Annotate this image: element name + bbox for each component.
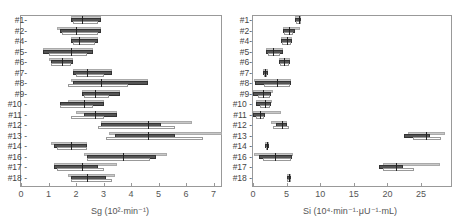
si-row-label: #8-	[224, 78, 252, 88]
si-median-line	[267, 142, 268, 150]
si-x-tick	[387, 183, 388, 186]
sg-median-line	[148, 121, 149, 129]
sg-row-label: #18 -	[0, 173, 27, 183]
sg-x-tick	[159, 183, 160, 186]
si-box-white	[263, 158, 291, 161]
sg-median-line	[79, 37, 80, 45]
sg-median-line	[71, 142, 72, 150]
sg-box-white	[84, 95, 109, 98]
si-row-label: #18 -	[224, 173, 252, 183]
si-median-line	[263, 90, 264, 98]
sg-box-white	[62, 32, 98, 35]
sg-median-line	[101, 79, 102, 87]
sg-box-white	[60, 105, 93, 108]
sg-median-line	[62, 58, 63, 66]
sg-row-label: #1-	[0, 15, 27, 25]
si-x-tick-label: 25	[416, 189, 426, 199]
si-median-line	[299, 16, 300, 24]
sg-median-line	[82, 163, 83, 171]
si-median-line	[287, 37, 288, 45]
sg-median-line	[123, 153, 124, 161]
sg-box-white	[51, 63, 70, 66]
si-median-line	[277, 79, 278, 87]
sg-row-label: #4-	[0, 36, 27, 46]
sg-row-label: #16 -	[0, 152, 27, 162]
sg-x-tick	[186, 183, 187, 186]
sg-x-tick-label: 2	[73, 189, 78, 199]
sg-row-label: #10 -	[0, 99, 27, 109]
sg-row-label: #17 -	[0, 162, 27, 172]
sg-median-line	[87, 174, 88, 182]
si-x-tick-label: 10	[315, 189, 325, 199]
sg-box-white	[49, 53, 88, 56]
sg-x-tick-label: 1	[46, 189, 51, 199]
si-x-tick	[253, 183, 254, 186]
sg-box-white	[68, 84, 129, 87]
si-median-line	[265, 69, 266, 77]
sg-row-label: #8-	[0, 78, 27, 88]
si-x-tick	[354, 183, 355, 186]
si-x-tick	[320, 183, 321, 186]
sg-box-white	[73, 42, 95, 45]
sg-median-line	[76, 27, 77, 35]
sg-x-tick-label: 7	[211, 189, 216, 199]
sg-plot-area	[20, 15, 222, 187]
sg-x-tick-label: 6	[183, 189, 188, 199]
si-x-tick	[421, 183, 422, 186]
sg-box-white	[57, 147, 87, 150]
si-box-white	[258, 95, 269, 98]
si-row-label: #12 -	[224, 120, 252, 130]
sg-box-white	[76, 74, 104, 77]
sg-x-tick	[214, 183, 215, 186]
si-row-label: #16 -	[224, 152, 252, 162]
sg-median-line	[82, 16, 83, 24]
si-row-label: #4-	[224, 36, 252, 46]
sg-x-tick	[76, 183, 77, 186]
si-row-label: #1-	[224, 15, 252, 25]
sg-box-white	[71, 179, 112, 182]
sg-row-label: #12 -	[0, 120, 27, 130]
sg-row-label: #13 -	[0, 131, 27, 141]
si-median-line	[273, 48, 274, 56]
sg-x-tick	[49, 183, 50, 186]
si-median-line	[289, 174, 290, 182]
si-x-tick-label: 5	[284, 189, 289, 199]
sg-box-white	[71, 116, 104, 119]
si-median-line	[396, 163, 397, 171]
si-row-label: #17 -	[224, 162, 252, 172]
sg-box-white	[87, 158, 150, 161]
si-box-white	[383, 168, 415, 171]
si-row-label: #7-	[224, 68, 252, 78]
si-row-label: #13 -	[224, 131, 252, 141]
si-row-label: #10 -	[224, 99, 252, 109]
sg-row-label: #6-	[0, 57, 27, 67]
sg-x-tick	[21, 183, 22, 186]
sg-x-tick-label: 3	[101, 189, 106, 199]
si-median-line	[265, 100, 266, 108]
si-median-line	[282, 121, 283, 129]
sg-x-tick	[131, 183, 132, 186]
si-x-tick-label: 15	[349, 189, 359, 199]
sg-row-label: #2-	[0, 26, 27, 36]
sg-median-line	[87, 69, 88, 77]
si-row-label: #5-	[224, 47, 252, 57]
si-axis-title: Si (10⁴·min⁻¹·μU⁻¹·mL)	[303, 206, 397, 216]
si-median-line	[275, 153, 276, 161]
sg-row-label: #9-	[0, 89, 27, 99]
si-median-line	[284, 58, 285, 66]
si-x-tick-label: 0	[250, 189, 255, 199]
sg-x-tick-label: 4	[128, 189, 133, 199]
si-x-tick-label: 20	[382, 189, 392, 199]
si-row-label: #11 -	[224, 110, 252, 120]
sg-median-line	[95, 90, 96, 98]
sg-median-line	[148, 132, 149, 140]
sg-box-white	[57, 168, 104, 171]
si-median-line	[260, 111, 261, 119]
sg-median-line	[95, 111, 96, 119]
si-row-label: #2-	[224, 26, 252, 36]
sg-median-line	[84, 100, 85, 108]
sg-median-line	[71, 48, 72, 56]
sg-x-tick	[104, 183, 105, 186]
sg-row-label: #11 -	[0, 110, 27, 120]
sg-row-label: #7-	[0, 68, 27, 78]
